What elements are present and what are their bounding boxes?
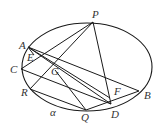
geometry-diagram: PAECGRQDFBα [0, 0, 163, 133]
point-label-G: G [51, 65, 59, 77]
point-label-P: P [91, 8, 99, 20]
point-label-Q: Q [81, 111, 89, 123]
segment-PD [93, 22, 111, 104]
point-label-A: A [18, 39, 26, 51]
point-label-E: E [26, 51, 34, 63]
diagram-canvas: PAECGRQDFBα [0, 0, 163, 133]
point-label-D: D [110, 108, 119, 120]
plane-ellipse [22, 23, 152, 111]
point-label-B: B [144, 89, 151, 101]
plane-label: α [50, 106, 56, 118]
point-label-C: C [10, 63, 18, 75]
point-label-F: F [113, 85, 121, 97]
point-label-R: R [20, 86, 28, 98]
segment-AF [28, 47, 110, 98]
